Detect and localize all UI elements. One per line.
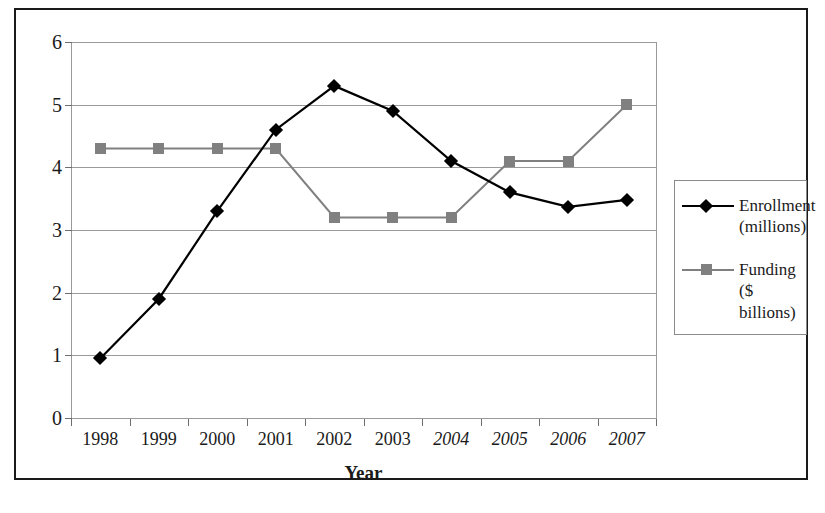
legend-marker-diamond-icon	[699, 199, 713, 213]
data-point-funding-2002	[329, 212, 340, 223]
x-tick-mark	[539, 419, 540, 426]
x-tick-mark	[481, 419, 482, 426]
data-point-funding-2005	[504, 156, 515, 167]
legend-swatch-diamond-icon	[682, 198, 734, 214]
legend-label-unit: ($ billions)	[739, 280, 813, 323]
legend-swatch-square-icon	[682, 262, 734, 278]
x-tick-mark	[188, 419, 189, 426]
data-point-funding-2006	[563, 156, 574, 167]
x-tick-mark	[364, 419, 365, 426]
y-tick-label: 1	[32, 345, 62, 365]
x-tick-mark	[598, 419, 599, 426]
y-tick-label: 3	[32, 220, 62, 240]
chart-legend: Enrollment(millions)Funding($ billions)	[674, 180, 807, 335]
legend-label: Funding($ billions)	[739, 259, 813, 323]
x-tick-mark	[247, 419, 248, 426]
x-tick-mark	[422, 419, 423, 426]
legend-marker-square-icon	[701, 264, 712, 275]
y-tick-label: 6	[32, 32, 62, 52]
legend-label-name: Enrollment	[739, 196, 815, 215]
data-point-funding-1998	[95, 143, 106, 154]
series-lines	[71, 42, 656, 418]
x-tick-label: 2007	[591, 430, 663, 448]
data-point-funding-2007	[621, 99, 632, 110]
x-tick-mark	[656, 419, 657, 426]
data-point-funding-1999	[153, 143, 164, 154]
x-tick-mark	[71, 419, 72, 426]
data-point-funding-2000	[212, 143, 223, 154]
x-tick-mark	[130, 419, 131, 426]
y-tick-label: 4	[32, 157, 62, 177]
y-tick-label: 2	[32, 283, 62, 303]
plot-right-border	[656, 42, 657, 419]
legend-label-unit: (millions)	[739, 216, 813, 237]
legend-label: Enrollment(millions)	[739, 195, 813, 238]
chart-figure: 6543210 19981999200020012002200320042005…	[0, 0, 825, 513]
y-axis-tick-labels: 6543210	[28, 42, 62, 418]
data-point-funding-2003	[387, 212, 398, 223]
chart-frame-border: 6543210 19981999200020012002200320042005…	[14, 8, 808, 480]
x-tick-mark	[305, 419, 306, 426]
plot-area	[71, 42, 656, 418]
data-point-funding-2001	[270, 143, 281, 154]
y-tick-label: 5	[32, 95, 62, 115]
y-tick-label: 0	[32, 408, 62, 428]
x-axis-title: Year	[71, 462, 656, 484]
data-point-funding-2004	[446, 212, 457, 223]
legend-label-name: Funding	[739, 260, 796, 279]
series-line-funding	[100, 105, 627, 218]
series-line-enrollment	[100, 86, 627, 359]
